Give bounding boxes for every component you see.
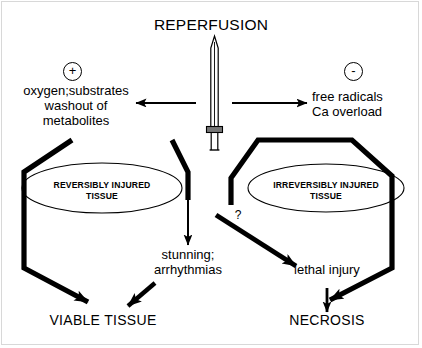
viable-tissue-label: VIABLE TISSUE: [18, 313, 188, 329]
plus-sign: +: [63, 62, 82, 81]
stunning-label-line-1: stunning;: [128, 248, 248, 263]
right-branch-line-2: Ca overload: [312, 105, 422, 120]
diagram-canvas: REPERFUSION + - oxygen;substrates washou…: [0, 0, 422, 348]
right-branch-line-1: free radicals: [312, 90, 422, 105]
reversibly-injured-tissue-label-2: TISSUE: [22, 191, 182, 202]
lethal-injury-label: lethal injury: [262, 263, 392, 278]
irreversibly-injured-tissue-label-2: TISSUE: [248, 191, 404, 202]
minus-sign: -: [344, 62, 363, 81]
question-mark-label: ?: [228, 209, 248, 222]
reperfusion-flow-diagram: [0, 0, 422, 348]
left-branch-line-2: washout of: [0, 99, 152, 114]
sword-icon: [207, 36, 223, 150]
diagram-title: REPERFUSION: [0, 16, 422, 33]
stunning-label-line-2: arrhythmias: [128, 263, 248, 278]
arrow-stunning-to-viable: [128, 283, 155, 306]
left-branch-line-3: metabolites: [0, 114, 152, 129]
reversibly-injured-tissue-label-1: REVERSIBLY INJURED: [22, 180, 182, 191]
left-branch-line-1: oxygen;substrates: [0, 84, 152, 99]
irreversibly-injured-tissue-label-1: IRREVERSIBLY INJURED: [248, 180, 404, 191]
necrosis-label: NECROSIS: [262, 313, 392, 329]
